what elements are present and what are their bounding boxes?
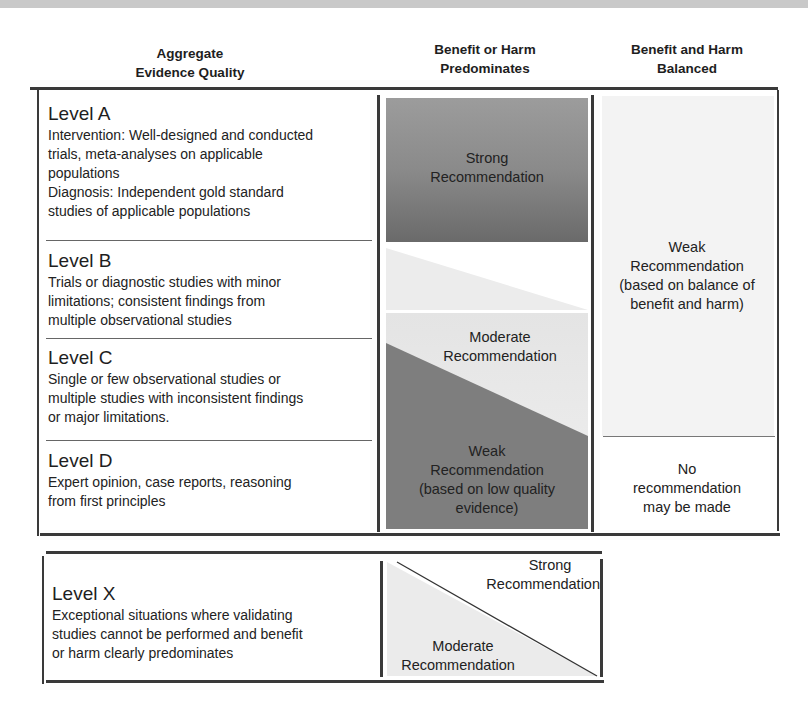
desc-line: Diagnosis: Independent gold standard (48, 183, 370, 202)
rec-line: Weak (596, 238, 778, 257)
row-divider (46, 240, 372, 241)
level-title: Level B (48, 250, 370, 272)
header-line: Balanced (592, 59, 782, 78)
level-a: Level A Intervention: Well-designed and … (48, 103, 370, 221)
level-description: Exceptional situations where validating … (52, 606, 374, 663)
rec-line: Weak (385, 442, 589, 461)
level-x-top-rule (46, 551, 602, 554)
header-line: Benefit or Harm (385, 40, 585, 59)
top-strip (0, 0, 808, 8)
desc-line: Intervention: Well-designed and conducte… (48, 126, 370, 145)
rec-line: (based on balance of (596, 276, 778, 295)
level-d: Level D Expert opinion, case reports, re… (48, 450, 370, 511)
level-x-strong-recommendation: Strong Recommendation (470, 556, 600, 594)
desc-line: multiple studies with inconsistent findi… (48, 389, 370, 408)
rec-line: No (596, 460, 778, 479)
desc-line: Expert opinion, case reports, reasoning (48, 473, 370, 492)
level-title: Level C (48, 347, 370, 369)
middle-right-border (591, 95, 594, 532)
row-divider (46, 440, 372, 441)
level-x-left-border (42, 556, 44, 684)
header-benefit-and-harm-balanced: Benefit and Harm Balanced (592, 40, 782, 78)
header-rule (30, 87, 778, 90)
level-title: Level A (48, 103, 370, 125)
no-recommendation: No recommendation may be made (596, 460, 778, 517)
level-description: Trials or diagnostic studies with minor … (48, 273, 370, 330)
level-title: Level X (52, 583, 374, 605)
rec-line: (based on low quality (385, 480, 589, 499)
rec-line: Moderate (388, 637, 528, 656)
rec-line: Strong (385, 149, 589, 168)
level-description: Expert opinion, case reports, reasoning … (48, 473, 370, 511)
level-x: Level X Exceptional situations where val… (52, 583, 374, 663)
rec-line: Moderate (398, 328, 602, 347)
rec-line: Recommendation (388, 656, 528, 675)
rec-line: may be made (596, 498, 778, 517)
rec-line: recommendation (596, 479, 778, 498)
rec-line: evidence) (385, 499, 589, 518)
left-border (37, 90, 39, 536)
level-x-moderate-recommendation: Moderate Recommendation (388, 637, 528, 675)
header-line: Aggregate (90, 44, 290, 63)
level-c: Level C Single or few observational stud… (48, 347, 370, 427)
header-line: Predominates (385, 59, 585, 78)
rec-line: Recommendation (385, 461, 589, 480)
desc-line: populations (48, 164, 370, 183)
level-description: Intervention: Well-designed and conducte… (48, 126, 370, 221)
desc-line: from first principles (48, 492, 370, 511)
level-title: Level D (48, 450, 370, 472)
desc-line: trials, meta-analyses on applicable (48, 145, 370, 164)
rec-line: Strong (470, 556, 600, 575)
header-evidence-quality: Aggregate Evidence Quality (90, 44, 290, 82)
header-line: Evidence Quality (90, 63, 290, 82)
desc-line: studies of applicable populations (48, 202, 370, 221)
desc-line: limitations; consistent findings from (48, 292, 370, 311)
level-x-middle-border (380, 561, 383, 677)
middle-left-border (377, 95, 380, 532)
level-x-bottom-rule (46, 680, 604, 683)
rec-line: Recommendation (398, 347, 602, 366)
rec-line: Recommendation (596, 257, 778, 276)
strong-recommendation: Strong Recommendation (385, 149, 589, 187)
desc-line: Single or few observational studies or (48, 370, 370, 389)
row-divider (46, 338, 372, 339)
desc-line: Exceptional situations where validating (52, 606, 374, 625)
header-line: Benefit and Harm (592, 40, 782, 59)
weak-recommendation-balance: Weak Recommendation (based on balance of… (596, 238, 778, 314)
weak-recommendation-low-quality: Weak Recommendation (based on low qualit… (385, 442, 589, 518)
desc-line: or major limitations. (48, 408, 370, 427)
desc-line: multiple observational studies (48, 311, 370, 330)
level-b: Level B Trials or diagnostic studies wit… (48, 250, 370, 330)
level-x-right-border (600, 559, 603, 677)
level-description: Single or few observational studies or m… (48, 370, 370, 427)
rec-line: Recommendation (385, 168, 589, 187)
header-benefit-or-harm: Benefit or Harm Predominates (385, 40, 585, 78)
desc-line: or harm clearly predominates (52, 644, 374, 663)
desc-line: studies cannot be performed and benefit (52, 625, 374, 644)
desc-line: Trials or diagnostic studies with minor (48, 273, 370, 292)
moderate-recommendation: Moderate Recommendation (398, 328, 602, 366)
rec-line: Recommendation (470, 575, 600, 594)
table-bottom-rule (40, 533, 780, 536)
rec-line: benefit and harm) (596, 295, 778, 314)
balanced-divider (603, 436, 775, 437)
